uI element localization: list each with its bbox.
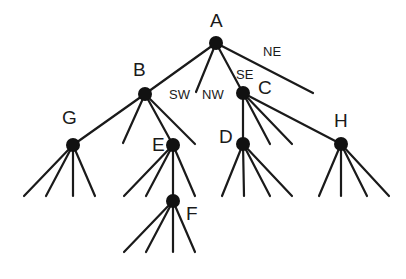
nodes-group — [66, 36, 348, 208]
node-label-f: F — [186, 203, 198, 224]
tree-edge — [243, 144, 270, 196]
tree-edge — [73, 145, 95, 196]
edge-label-ne: NE — [263, 44, 281, 59]
quadtree-diagram: ABCGEDHF SWNWSENE — [0, 0, 406, 279]
tree-node-h — [334, 137, 348, 151]
tree-edge — [46, 145, 73, 196]
node-labels-group: ABCGEDHF — [62, 10, 348, 224]
tree-node-d — [236, 137, 250, 151]
node-label-c: C — [258, 77, 272, 98]
tree-edge — [243, 93, 292, 144]
tree-node-c — [236, 86, 250, 100]
tree-canvas: ABCGEDHF SWNWSENE — [0, 0, 406, 279]
node-label-h: H — [334, 110, 348, 131]
tree-node-a — [209, 36, 223, 50]
tree-node-f — [166, 194, 180, 208]
edge-label-nw: NW — [202, 87, 224, 102]
tree-edge — [173, 145, 195, 196]
tree-edge — [341, 144, 367, 196]
edge-label-se: SE — [236, 67, 254, 82]
tree-node-g — [66, 138, 80, 152]
tree-edge — [319, 144, 341, 196]
tree-edge — [146, 201, 173, 252]
node-label-a: A — [210, 10, 223, 31]
node-label-e: E — [152, 134, 165, 155]
node-label-g: G — [62, 107, 77, 128]
tree-edge — [341, 144, 389, 196]
tree-edge — [243, 144, 244, 196]
edge-label-sw: SW — [169, 87, 191, 102]
tree-edge — [24, 145, 73, 196]
node-label-b: B — [133, 59, 146, 80]
tree-edge — [222, 144, 243, 196]
node-label-d: D — [219, 126, 233, 147]
tree-edge — [124, 201, 173, 252]
tree-edge — [243, 144, 292, 196]
tree-edge — [124, 145, 173, 196]
tree-node-b — [138, 87, 152, 101]
tree-node-e — [166, 138, 180, 152]
